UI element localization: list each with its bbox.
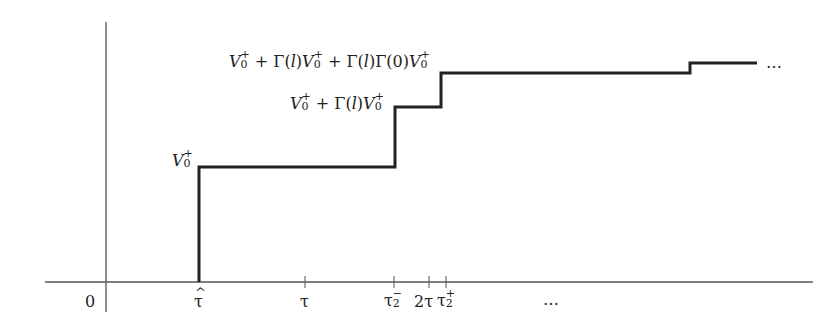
tick-label-tau: τ [300,294,309,310]
tick-label-tau-hat: ^ τ [194,294,203,310]
tick-label-2tau: 2τ [414,294,433,310]
curve-ellipsis: … [766,55,782,71]
tick-label-tau2-plus: τ+2 [437,292,455,312]
tau-hat-hat: ^ [195,286,206,299]
level-label-1: V+0 [172,152,193,172]
level-label-2: V+0 + Γ(l)V+0 [290,95,384,115]
step-response-plot [0,0,823,329]
tick-label-origin: 0 [85,294,95,310]
tick-label-tau2-minus: τ−2 [384,292,402,312]
tau2-minus-scripts: −2 [393,289,402,309]
x-axis-ellipsis: … [543,292,559,308]
tau2-plus-base: τ [437,291,446,310]
tau2-minus-base: τ [384,291,393,310]
tau2-plus-scripts: +2 [446,289,455,309]
level-label-3: V+0 + Γ(l)V+0 + Γ(l)Γ(0)V+0 [229,53,430,73]
step-curve [199,63,757,282]
